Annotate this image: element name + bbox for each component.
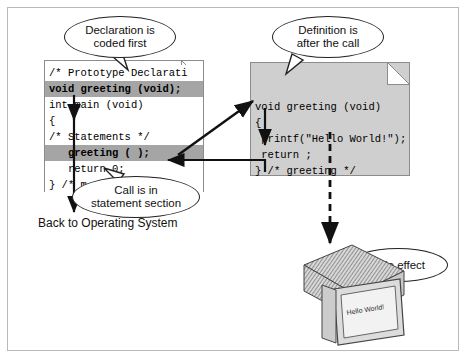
back-to-os-caption: Back to Operating System (38, 216, 177, 230)
code-line: { (251, 115, 409, 131)
declaration-bubble-line1: Declaration is (85, 24, 155, 36)
right-code-lines: void greeting (void) { printf("Hello Wor… (251, 63, 409, 175)
figure-root: /* Prototype Declarati void greeting (vo… (0, 0, 466, 358)
definition-callout-bubble: Definition is after the call (272, 16, 384, 58)
call-callout-bubble: Call is in statement section (72, 176, 200, 218)
code-line: { (45, 113, 203, 129)
definition-bubble-line1: Definition is (298, 24, 357, 36)
declaration-callout-bubble: Declaration is coded first (64, 16, 176, 58)
declaration-bubble-line2: coded first (93, 37, 146, 49)
left-code-lines: /* Prototype Declarati void greeting (vo… (45, 61, 203, 191)
code-line-declaration: void greeting (void); (45, 81, 203, 97)
code-line: } /* greeting */ (251, 163, 409, 179)
code-line-definition: void greeting (void) (251, 99, 409, 115)
code-line-call: greeting ( ); (45, 145, 203, 161)
code-line: return 0; (45, 161, 203, 177)
main-function-code-page: /* Prototype Declarati void greeting (vo… (44, 60, 204, 192)
greeting-function-code-page: void greeting (void) { printf("Hello Wor… (250, 62, 410, 176)
call-bubble-line1: Call is in (114, 184, 157, 196)
code-line: /* Statements */ (45, 129, 203, 145)
monitor-graphic: Hello World! (300, 243, 422, 351)
monitor-stand (322, 285, 336, 343)
code-line-printf: printf("Hello World!"); (251, 131, 409, 147)
definition-bubble-line2: after the call (297, 37, 360, 49)
call-bubble-line2: statement section (91, 197, 181, 209)
code-line: /* Prototype Declarati (45, 65, 203, 81)
code-line: int main (void) (45, 97, 203, 113)
code-line-return: return ; (251, 147, 409, 163)
